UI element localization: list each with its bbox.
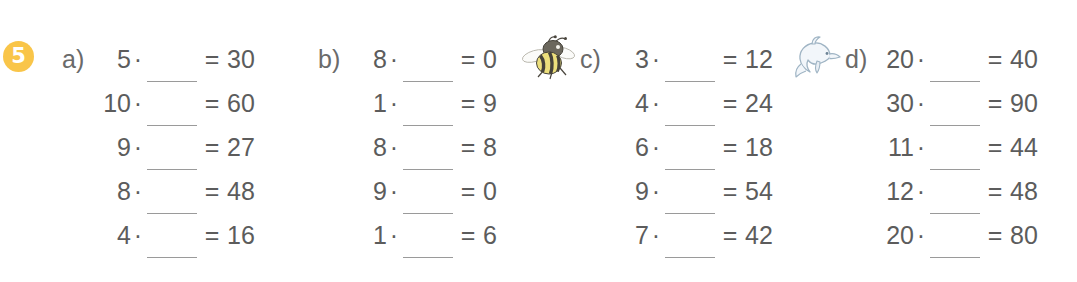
equation-row: 8 · = 8 [318, 130, 521, 174]
answer-blank[interactable] [928, 86, 984, 120]
column-label-a: a) [62, 42, 89, 76]
equals-sign: = [719, 42, 741, 76]
multiplication-operator: · [649, 130, 663, 164]
equation-row: 11 · = 44 [845, 130, 1048, 174]
equals-sign: = [457, 42, 479, 76]
exercise-number: 5 [11, 46, 26, 67]
answer-blank[interactable] [401, 42, 457, 76]
factor-value: 8 [89, 174, 131, 208]
equals-sign: = [984, 130, 1006, 164]
equation-row: 4 · = 24 [580, 86, 783, 130]
multiplication-operator: · [131, 174, 145, 208]
product-value: 42 [741, 218, 783, 252]
equals-sign: = [719, 86, 741, 120]
factor-value: 1 [345, 86, 387, 120]
equation-row: 9 · = 27 [62, 130, 265, 174]
factor-value: 1 [345, 218, 387, 252]
product-value: 9 [479, 86, 521, 120]
multiplication-operator: · [914, 218, 928, 252]
equals-sign: = [201, 42, 223, 76]
equation-row: 20 · = 80 [845, 218, 1048, 262]
product-value: 0 [479, 174, 521, 208]
product-value: 60 [223, 86, 265, 120]
answer-blank[interactable] [401, 174, 457, 208]
answer-blank[interactable] [145, 42, 201, 76]
multiplication-operator: · [387, 130, 401, 164]
factor-value: 3 [607, 42, 649, 76]
product-value: 44 [1006, 130, 1048, 164]
product-value: 54 [741, 174, 783, 208]
equation-row: 30 · = 90 [845, 86, 1048, 130]
exercise-column-d: d) 20 · = 40 30 · = 90 11 · = 44 12 · [845, 42, 1048, 262]
column-label-b: b) [318, 42, 345, 76]
equals-sign: = [984, 42, 1006, 76]
answer-blank[interactable] [663, 218, 719, 252]
product-value: 80 [1006, 218, 1048, 252]
multiplication-operator: · [649, 86, 663, 120]
factor-value: 30 [872, 86, 914, 120]
exercise-column-c: c) 3 · = 12 4 · = 24 6 · = 18 9 · [580, 42, 783, 262]
answer-blank[interactable] [145, 218, 201, 252]
exercise-column-b: b) 8 · = 0 1 · = 9 8 · = 8 9 · [318, 42, 521, 262]
multiplication-operator: · [387, 86, 401, 120]
answer-blank[interactable] [663, 130, 719, 164]
answer-blank[interactable] [663, 174, 719, 208]
exercise-number-badge: 5 [3, 41, 34, 72]
equation-row: d) 20 · = 40 [845, 42, 1048, 86]
multiplication-operator: · [649, 218, 663, 252]
equation-row: 6 · = 18 [580, 130, 783, 174]
equals-sign: = [457, 130, 479, 164]
answer-blank[interactable] [145, 86, 201, 120]
product-value: 18 [741, 130, 783, 164]
answer-blank[interactable] [401, 218, 457, 252]
product-value: 27 [223, 130, 265, 164]
multiplication-operator: · [649, 42, 663, 76]
equals-sign: = [457, 218, 479, 252]
factor-value: 9 [89, 130, 131, 164]
multiplication-operator: · [387, 218, 401, 252]
answer-blank[interactable] [145, 174, 201, 208]
equation-row: a) 5 · = 30 [62, 42, 265, 86]
equation-row: 12 · = 48 [845, 174, 1048, 218]
product-value: 0 [479, 42, 521, 76]
product-value: 40 [1006, 42, 1048, 76]
answer-blank[interactable] [663, 86, 719, 120]
multiplication-operator: · [131, 130, 145, 164]
product-value: 16 [223, 218, 265, 252]
equals-sign: = [984, 86, 1006, 120]
multiplication-operator: · [131, 42, 145, 76]
answer-blank[interactable] [145, 130, 201, 164]
equals-sign: = [201, 86, 223, 120]
multiplication-operator: · [387, 42, 401, 76]
product-value: 48 [1006, 174, 1048, 208]
product-value: 30 [223, 42, 265, 76]
answer-blank[interactable] [928, 130, 984, 164]
multiplication-operator: · [914, 130, 928, 164]
answer-blank[interactable] [928, 218, 984, 252]
product-value: 12 [741, 42, 783, 76]
equation-row: 4 · = 16 [62, 218, 265, 262]
product-value: 90 [1006, 86, 1048, 120]
factor-value: 4 [607, 86, 649, 120]
answer-blank[interactable] [928, 174, 984, 208]
factor-value: 9 [345, 174, 387, 208]
equation-row: 9 · = 0 [318, 174, 521, 218]
answer-blank[interactable] [401, 86, 457, 120]
equation-row: 7 · = 42 [580, 218, 783, 262]
factor-value: 7 [607, 218, 649, 252]
equation-row: 1 · = 9 [318, 86, 521, 130]
answer-blank[interactable] [401, 130, 457, 164]
equals-sign: = [457, 86, 479, 120]
answer-blank[interactable] [663, 42, 719, 76]
equation-row: 8 · = 48 [62, 174, 265, 218]
answer-blank[interactable] [928, 42, 984, 76]
factor-value: 6 [607, 130, 649, 164]
product-value: 8 [479, 130, 521, 164]
bee-icon [522, 34, 576, 86]
product-value: 6 [479, 218, 521, 252]
equals-sign: = [201, 218, 223, 252]
dolphin-icon [790, 34, 844, 86]
product-value: 48 [223, 174, 265, 208]
multiplication-operator: · [131, 86, 145, 120]
equals-sign: = [984, 174, 1006, 208]
